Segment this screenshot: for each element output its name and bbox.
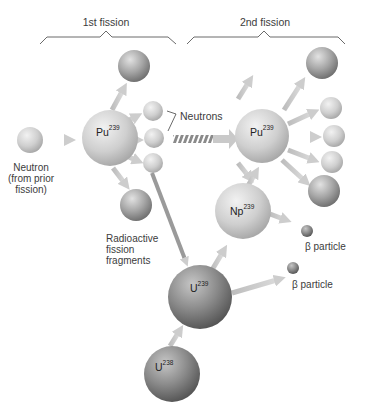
fragment-upper-first [118,50,150,82]
np-mass: 239 [243,203,254,210]
pu1-symbol: Pu [96,126,109,138]
fragment-lower-first [120,189,152,221]
u238 [144,346,200,402]
input-neutron [17,127,43,153]
label-fission-fragments: Radioactive fission fragments [106,233,158,266]
pu239-first [82,110,138,166]
neutron-second-3 [321,151,343,173]
label-neutrons: Neutrons [180,111,223,122]
neutron-first-2 [144,128,164,148]
fission-diagram [0,0,365,418]
u238-mass: 238 [163,359,174,366]
neutrons-callout-line [167,111,176,131]
label-fragments-line2: fission [106,244,158,255]
neutron-first-3 [143,153,163,173]
label-neutron: Neutron (from prior fission) [0,162,62,195]
neutron-first-1 [143,101,163,121]
u239 [168,265,232,329]
u239-mass: 239 [198,280,209,287]
beta-particle-2 [287,262,299,274]
bracket-second-fission [187,31,345,44]
u238-symbol: U [155,361,163,373]
bracket-first-fission [40,31,176,44]
pu2-symbol: Pu [250,126,263,138]
label-neutron-line2: (from prior [0,173,62,184]
label-fragments-line3: fragments [106,255,158,266]
u239-symbol: U [190,282,198,294]
fragment-upper-second [306,47,338,79]
label-pu239-second: Pu239 [250,126,274,138]
label-u239: U239 [190,282,208,294]
label-np239: Np239 [230,205,254,217]
label-beta-2: β particle [292,279,333,290]
fragment-lower-second [308,175,340,207]
np-symbol: Np [230,205,243,217]
label-fragments-line1: Radioactive [106,233,158,244]
label-pu239-first: Pu239 [96,126,120,138]
hatched-arrow [173,129,238,149]
neutron-second-1 [320,97,342,119]
pu2-mass: 239 [263,124,274,131]
label-beta-1: β particle [305,241,346,252]
label-neutron-line3: fission) [0,184,62,195]
label-u238: U238 [155,361,173,373]
beta-particle-1 [301,225,313,237]
header-second-fission: 2nd fission [228,17,302,28]
neutron-second-2 [323,125,345,147]
label-neutron-line1: Neutron [0,162,62,173]
header-first-fission: 1st fission [70,17,142,28]
pu1-mass: 239 [109,124,120,131]
